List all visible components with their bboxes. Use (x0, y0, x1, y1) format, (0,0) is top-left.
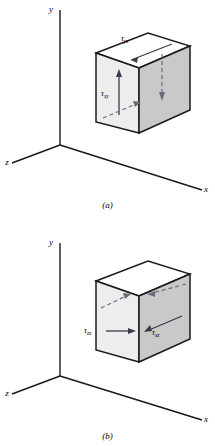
y-axis-label: y (48, 237, 53, 247)
diagram-b: y x z τzx τxz (0, 223, 215, 446)
z-axis-line (12, 376, 60, 394)
z-axis-line (12, 145, 60, 163)
caption-a: (a) (0, 200, 215, 210)
tau-zx-label: τzx (84, 326, 92, 336)
x-axis-label: x (203, 414, 208, 424)
figure-panel-a: y x z τyz τxy (a) (0, 0, 215, 223)
x-axis-line (60, 376, 202, 420)
z-axis-label: z (4, 388, 9, 398)
tau-yz-label: τyz (121, 34, 129, 44)
tau-yz-subscript: yz (123, 38, 129, 44)
caption-b: (b) (0, 431, 215, 441)
x-axis-label: x (203, 184, 208, 194)
cube-front-face (96, 281, 139, 362)
x-axis-line (60, 145, 202, 190)
figure-panel-b: y x z τzx τxz (b) (0, 223, 215, 446)
tau-xz-subscript: xz (154, 332, 160, 338)
tau-xy-subscript: xy (103, 93, 109, 99)
y-axis-label: y (48, 4, 53, 14)
tau-zx-subscript: zx (86, 330, 92, 336)
diagram-a: y x z τyz τxy (0, 0, 215, 223)
z-axis-label: z (4, 157, 9, 167)
